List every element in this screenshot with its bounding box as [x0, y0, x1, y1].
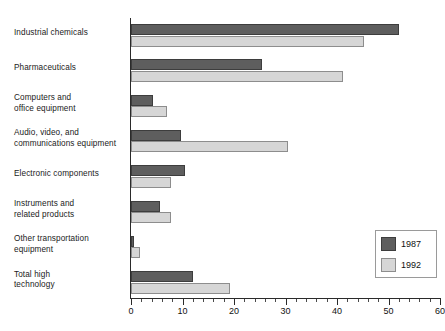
x-tick-label-20: 20 — [229, 306, 239, 316]
x-tick-minor-48 — [378, 299, 379, 302]
category-label-line: Computers and — [14, 93, 126, 104]
light-swatch-icon — [381, 258, 396, 272]
category-label-1: Pharmaceuticals — [14, 63, 126, 74]
legend-entry-1992: 1992 — [381, 258, 421, 272]
x-tick-major-20 — [234, 299, 235, 305]
legend: 1987 1992 — [375, 230, 437, 278]
bar-1992-2 — [131, 106, 167, 117]
x-tick-minor-52 — [399, 299, 400, 302]
x-tick-minor-6 — [162, 299, 163, 302]
x-tick-minor-58 — [430, 299, 431, 302]
x-tick-major-0 — [131, 299, 132, 305]
x-tick-label-30: 30 — [280, 306, 290, 316]
x-tick-minor-12 — [193, 299, 194, 302]
category-label-3: Audio, video, andcommunications equipmen… — [14, 128, 126, 149]
x-tick-minor-16 — [213, 299, 214, 302]
category-label-line: Total high — [14, 270, 126, 281]
category-label-6: Other transportationequipment — [14, 234, 126, 255]
x-tick-minor-26 — [265, 299, 266, 302]
bar-1987-4 — [131, 165, 185, 176]
category-label-5: Instruments andrelated products — [14, 199, 126, 220]
x-tick-major-50 — [389, 299, 390, 305]
x-tick-minor-22 — [244, 299, 245, 302]
bar-1992-6 — [131, 247, 140, 258]
bar-1992-7 — [131, 283, 230, 294]
category-label-4: Electronic components — [14, 169, 126, 180]
x-tick-minor-42 — [347, 299, 348, 302]
x-tick-label-50: 50 — [383, 306, 393, 316]
category-label-7: Total hightechnology — [14, 270, 126, 291]
bar-1987-6 — [131, 236, 134, 247]
x-tick-minor-8 — [172, 299, 173, 302]
bar-1992-1 — [131, 71, 343, 82]
bar-1992-0 — [131, 36, 364, 47]
legend-label-1992: 1992 — [401, 260, 421, 270]
x-tick-minor-4 — [152, 299, 153, 302]
x-tick-minor-46 — [368, 299, 369, 302]
bar-1987-0 — [131, 24, 399, 35]
x-tick-major-10 — [183, 299, 184, 305]
bar-1987-3 — [131, 130, 181, 141]
bar-1992-3 — [131, 141, 288, 152]
bar-1987-1 — [131, 59, 262, 70]
x-tick-major-60 — [440, 299, 441, 305]
x-tick-minor-44 — [358, 299, 359, 302]
x-tick-minor-36 — [316, 299, 317, 302]
category-label-line: Electronic components — [14, 169, 126, 180]
x-tick-minor-56 — [419, 299, 420, 302]
x-tick-label-60: 60 — [435, 306, 445, 316]
x-tick-minor-18 — [224, 299, 225, 302]
bar-1987-2 — [131, 95, 153, 106]
category-label-line: Pharmaceuticals — [14, 63, 126, 74]
x-tick-minor-28 — [275, 299, 276, 302]
category-label-line: Other transportation — [14, 234, 126, 245]
bar-1987-7 — [131, 271, 193, 282]
legend-entry-1987: 1987 — [381, 237, 421, 251]
x-tick-minor-2 — [141, 299, 142, 302]
x-tick-minor-34 — [306, 299, 307, 302]
legend-label-1987: 1987 — [401, 239, 421, 249]
x-tick-major-30 — [286, 299, 287, 305]
category-label-line: Industrial chemicals — [14, 28, 126, 39]
category-label-line: Instruments and — [14, 199, 126, 210]
x-tick-major-40 — [337, 299, 338, 305]
x-tick-label-10: 10 — [177, 306, 187, 316]
bar-1987-5 — [131, 201, 160, 212]
category-label-line: technology — [14, 280, 126, 291]
x-tick-minor-54 — [409, 299, 410, 302]
category-label-line: communications equipment — [14, 139, 126, 150]
category-label-0: Industrial chemicals — [14, 28, 126, 39]
x-tick-minor-24 — [255, 299, 256, 302]
bar-1992-4 — [131, 177, 171, 188]
x-tick-minor-14 — [203, 299, 204, 302]
dark-swatch-icon — [381, 237, 396, 251]
category-label-line: equipment — [14, 245, 126, 256]
category-label-line: Audio, video, and — [14, 128, 126, 139]
category-label-2: Computers andoffice equipment — [14, 93, 126, 114]
category-label-line: related products — [14, 210, 126, 221]
category-label-line: office equipment — [14, 104, 126, 115]
x-tick-label-0: 0 — [128, 306, 133, 316]
x-tick-minor-38 — [327, 299, 328, 302]
bar-1992-5 — [131, 212, 171, 223]
x-tick-label-40: 40 — [332, 306, 342, 316]
x-tick-minor-32 — [296, 299, 297, 302]
